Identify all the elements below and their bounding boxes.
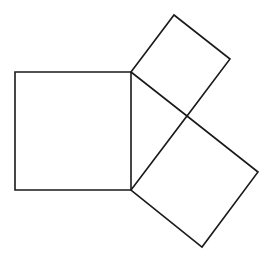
upper-leg-square (131, 15, 230, 116)
pythagorean-diagram (0, 0, 271, 260)
hypotenuse-square (15, 72, 131, 190)
lower-leg-square (131, 116, 258, 247)
